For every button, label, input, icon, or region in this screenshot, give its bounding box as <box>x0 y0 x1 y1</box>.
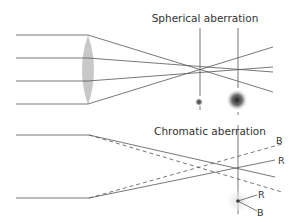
ray-label-r: R <box>278 155 285 166</box>
blurred-spot-icon <box>226 89 248 111</box>
convex-lens-top <box>82 35 94 105</box>
ray-label-b: B <box>276 135 283 146</box>
spherical-aberration-title: Spherical aberration <box>152 12 259 24</box>
spherical-aberration-panel: Spherical aberration <box>16 12 273 115</box>
spot-label-b: B <box>257 207 264 218</box>
chromatic-aberration-title: Chromatic aberration <box>154 125 266 137</box>
aberration-diagram: Spherical aberration Chromatic aberratio… <box>0 0 301 223</box>
spot-label-r: R <box>258 189 265 200</box>
focused-spot-icon <box>195 98 203 106</box>
